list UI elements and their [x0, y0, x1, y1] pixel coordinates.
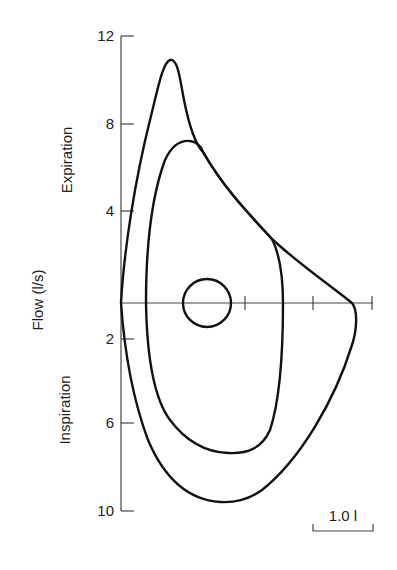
y-axis-label: Flow (l/s)	[29, 270, 46, 331]
expiration-label: Expiration	[58, 127, 75, 194]
maximal-effort-loop	[121, 60, 356, 502]
scale-bar-label: 1.0 l	[329, 507, 357, 524]
flow-volume-chart: 12 8 4 2 6 10 Expiration Flow (l/s) Insp…	[0, 0, 397, 570]
y-tick-label-8: 8	[106, 115, 114, 132]
y-tick-label-12: 12	[97, 27, 114, 44]
y-tick-label-10: 10	[97, 502, 114, 519]
scale-bar	[313, 524, 373, 531]
intermediate-effort-loop	[146, 141, 283, 453]
y-tick-label-2: 2	[106, 330, 114, 347]
y-tick-label-6: 6	[106, 414, 114, 431]
y-tick-label-4: 4	[106, 202, 114, 219]
inspiration-label: Inspiration	[56, 375, 73, 444]
